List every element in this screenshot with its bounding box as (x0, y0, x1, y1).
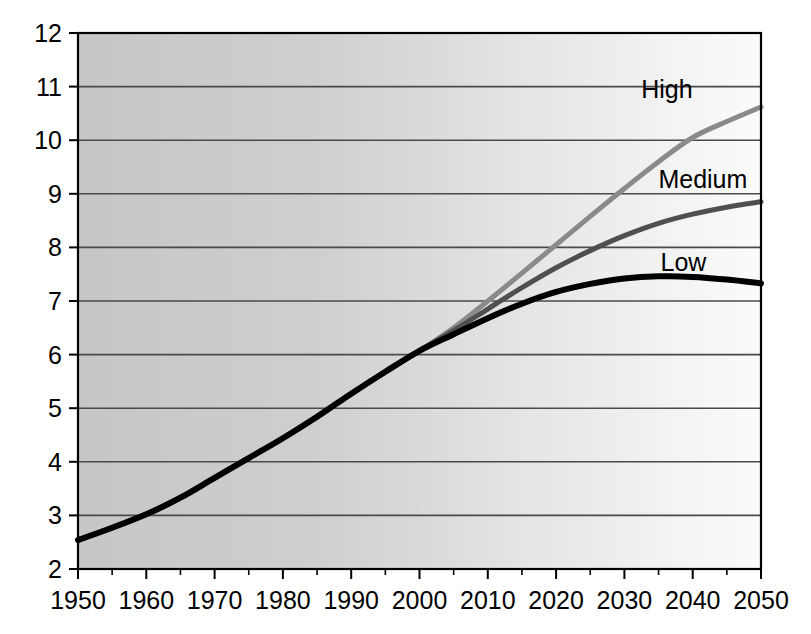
series-label-medium: Medium (658, 165, 747, 193)
x-axis-label-2010: 2010 (460, 586, 516, 614)
x-axis-label-1970: 1970 (187, 586, 243, 614)
x-axis-label-1990: 1990 (323, 586, 379, 614)
y-axis-label-11: 11 (36, 73, 62, 101)
series-label-low: Low (660, 248, 707, 276)
y-axis-label-12: 12 (34, 19, 62, 47)
x-axis-label-2000: 2000 (392, 586, 448, 614)
y-axis-label-6: 6 (48, 341, 62, 369)
x-axis-label-2020: 2020 (528, 586, 584, 614)
x-axis-labels: 1950196019701980199020002010202020302040… (50, 586, 789, 614)
chart-canvas: 12111098765432 1950196019701980199020002… (0, 0, 811, 634)
x-axis-label-1950: 1950 (50, 586, 106, 614)
y-axis-label-7: 7 (48, 287, 62, 315)
y-axis-label-2: 2 (48, 555, 62, 583)
y-axis-label-3: 3 (48, 501, 62, 529)
x-axis-label-1980: 1980 (255, 586, 311, 614)
x-axis-label-1960: 1960 (118, 586, 174, 614)
series-label-high: High (641, 75, 692, 103)
y-axis-label-10: 10 (34, 126, 62, 154)
y-axis-label-4: 4 (48, 448, 62, 476)
population-projection-chart: 12111098765432 1950196019701980199020002… (0, 0, 811, 634)
y-axis-label-5: 5 (48, 394, 62, 422)
x-axis-label-2050: 2050 (733, 586, 789, 614)
x-axis-label-2030: 2030 (597, 586, 653, 614)
y-axis-label-8: 8 (48, 233, 62, 261)
x-axis-label-2040: 2040 (665, 586, 721, 614)
y-axis-label-9: 9 (48, 180, 62, 208)
